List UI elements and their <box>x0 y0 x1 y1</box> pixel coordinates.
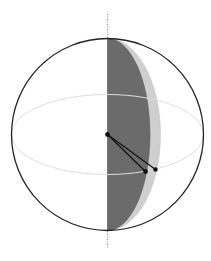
point-b <box>153 167 157 171</box>
sphere-diagram <box>0 0 211 261</box>
center-point <box>105 132 110 137</box>
point-a <box>143 169 148 174</box>
